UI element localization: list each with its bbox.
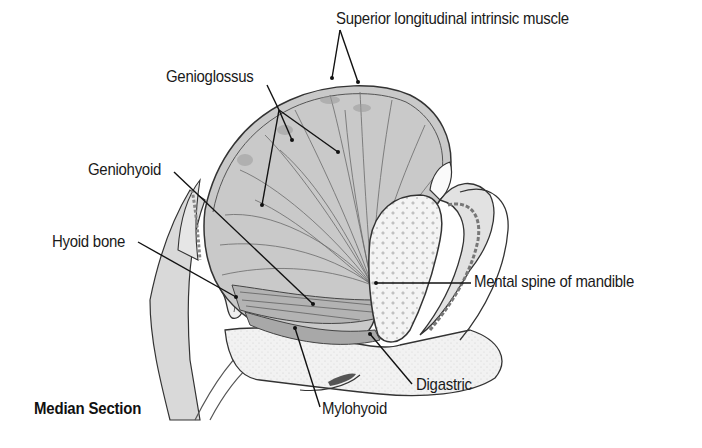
neck-tissue: [150, 190, 205, 420]
label-mental-spine: Mental spine of mandible: [474, 272, 634, 292]
label-mylohyoid: Mylohyoid: [322, 399, 387, 419]
label-superior-longitudinal: Superior longitudinal intrinsic muscle: [336, 9, 569, 29]
label-digastric: Digastric: [416, 375, 472, 395]
label-hyoid-bone: Hyoid bone: [52, 232, 125, 252]
tongue-median-section-illustration: [0, 0, 702, 448]
label-geniohyoid: Geniohyoid: [88, 160, 161, 180]
anatomy-figure: Superior longitudinal intrinsic muscle G…: [0, 0, 702, 448]
label-genioglossus: Genioglossus: [166, 67, 253, 87]
figure-caption: Median Section: [34, 399, 141, 419]
